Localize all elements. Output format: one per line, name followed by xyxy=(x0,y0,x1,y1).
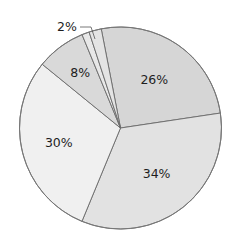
slice-label: 34% xyxy=(143,166,171,181)
pie-slices xyxy=(20,27,222,229)
label-2pct: 2% xyxy=(57,19,77,34)
slice-label: 8% xyxy=(70,65,90,80)
pie-chart: 2% 26%34%30%8% xyxy=(0,0,234,242)
slice-label: 26% xyxy=(140,72,168,87)
slice-label: 30% xyxy=(45,135,73,150)
